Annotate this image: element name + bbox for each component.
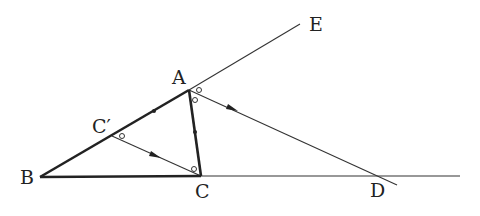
angle-mark-A-inner (193, 98, 198, 103)
label-D: D (370, 179, 385, 201)
label-B: B (20, 166, 34, 188)
ray-AE (189, 24, 300, 90)
label-E: E (309, 13, 323, 35)
angle-mark-A-outer (197, 88, 202, 93)
tick-mark-CprimeA (152, 109, 156, 113)
tick-mark-AC (193, 130, 197, 134)
side-BC (40, 176, 201, 177)
arrow-marker-AD (226, 104, 238, 111)
arrow-marker-CprimeC (149, 151, 161, 158)
geometry-diagram: A B C C′ D E (0, 0, 480, 216)
segment-AD (189, 90, 397, 185)
side-BA (40, 90, 189, 177)
label-C: C (195, 180, 210, 202)
label-A: A (171, 66, 186, 88)
angle-mark-C (192, 167, 197, 172)
angle-mark-Cprime (120, 134, 125, 139)
label-Cprime: C′ (92, 115, 111, 137)
